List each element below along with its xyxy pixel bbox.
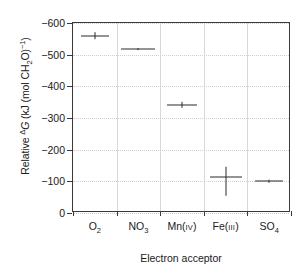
y-axis-tick-label: −200 (41, 144, 65, 156)
y-axis-tick (67, 23, 72, 24)
y-axis-tick (67, 118, 72, 119)
x-axis-tick (160, 211, 161, 216)
chart-figure: Relative ΔG (kJ (mol CH2O)−1) −600−500−4… (0, 0, 302, 274)
gridline-horizontal (73, 55, 289, 56)
gridline-horizontal (73, 150, 289, 151)
x-axis-tick (291, 211, 292, 216)
y-axis-tick (67, 150, 72, 151)
y-axis-tick-label: −400 (41, 80, 65, 92)
plot-area: −600−500−400−300−200−1000 O2NO3Mn(IV)Fe(… (72, 22, 290, 212)
y-axis-tick-label: −500 (41, 49, 65, 61)
y-axis-tick-label: −600 (41, 17, 65, 29)
x-axis-tick (117, 211, 118, 216)
data-marker-NO3 (121, 49, 155, 50)
gridline-vertical (247, 23, 248, 211)
y-axis-title: Relative ΔG (kJ (mol CH2O)−1) (13, 0, 31, 212)
x-axis-tick-label: Fe(III) (213, 220, 239, 232)
gridline-vertical (160, 23, 161, 211)
gridline-horizontal (73, 23, 289, 24)
data-marker-Mn(iv) (167, 104, 197, 105)
y-axis-tick-label: −300 (41, 112, 65, 124)
y-axis-tick-label: −100 (41, 175, 65, 187)
y-axis-title-text: Relative ΔG (kJ (mol CH2O)−1) (19, 37, 31, 174)
y-axis-tick (67, 213, 72, 214)
y-axis-tick (67, 55, 72, 56)
x-axis-tick-label: NO3 (128, 220, 148, 235)
x-axis-tick-label: O2 (89, 220, 101, 235)
y-axis-tick (67, 181, 72, 182)
y-axis-tick (67, 86, 72, 87)
x-axis-tick (73, 211, 74, 216)
x-axis-tick-label: SO4 (260, 220, 279, 235)
data-marker-Fe(iii) (210, 177, 242, 178)
error-bar-whisker (225, 167, 226, 196)
x-axis-tick (204, 211, 205, 216)
gridline-horizontal (73, 213, 289, 214)
data-marker-O2 (81, 35, 109, 36)
data-marker-SO4 (255, 181, 283, 182)
gridline-vertical (204, 23, 205, 211)
x-axis-tick (247, 211, 248, 216)
gridline-vertical (117, 23, 118, 211)
gridline-horizontal (73, 86, 289, 87)
x-axis-title: Electron acceptor (72, 252, 290, 264)
y-axis-tick-label: 0 (59, 207, 65, 219)
gridline-horizontal (73, 118, 289, 119)
x-axis-tick-label: Mn(IV) (167, 220, 196, 232)
